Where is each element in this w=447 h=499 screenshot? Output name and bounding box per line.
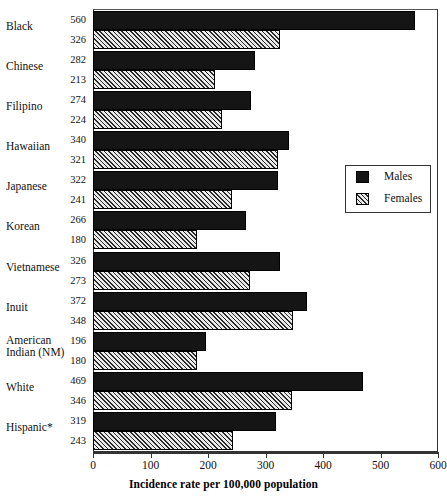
value-label-females: 243 (60, 435, 86, 446)
bar-males (93, 51, 255, 70)
value-label-females: 346 (60, 395, 86, 406)
bar-females (93, 150, 278, 169)
bar-males (93, 211, 246, 230)
bar-males (93, 292, 307, 311)
bar-females (93, 30, 280, 49)
value-label-females: 348 (60, 315, 86, 326)
x-axis-tick (208, 452, 209, 458)
bar-females (93, 230, 197, 249)
value-label-females: 321 (60, 154, 86, 165)
bar-males (93, 372, 363, 391)
bar-males (93, 412, 276, 431)
legend-swatch-females-icon (356, 193, 369, 205)
legend-item-females: Females (346, 188, 432, 212)
value-label-females: 213 (60, 74, 86, 85)
x-axis-tick (93, 452, 94, 458)
horizontal-bar-chart: BlackChineseFilipinoHawaiianJapaneseKore… (0, 0, 447, 499)
value-label-males: 340 (60, 134, 86, 145)
value-label-females: 273 (60, 275, 86, 286)
bar-females (93, 311, 293, 330)
x-axis-tick (266, 452, 267, 458)
bar-males (93, 131, 289, 150)
value-label-females: 224 (60, 114, 86, 125)
x-axis-tick-label: 100 (131, 459, 171, 471)
value-label-females: 180 (60, 355, 86, 366)
x-axis-title: Incidence rate per 100,000 population (0, 478, 447, 490)
x-axis-tick-label: 0 (73, 459, 113, 471)
bar-females (93, 70, 215, 89)
bar-males (93, 171, 278, 190)
x-axis-tick-label: 600 (418, 459, 447, 471)
value-label-males: 560 (60, 14, 86, 25)
x-axis-tick-label: 300 (246, 459, 286, 471)
value-label-females: 241 (60, 194, 86, 205)
value-label-females: 180 (60, 234, 86, 245)
value-label-males: 196 (60, 335, 86, 346)
bar-females (93, 110, 222, 129)
value-label-females: 326 (60, 34, 86, 45)
x-axis-tick (381, 452, 382, 458)
legend-swatch-males-icon (356, 171, 369, 183)
bar-females (93, 271, 250, 290)
bar-males (93, 91, 251, 110)
x-axis-tick (151, 452, 152, 458)
bar-females (93, 431, 233, 450)
legend-label-females: Females (384, 192, 422, 204)
value-label-males: 326 (60, 255, 86, 266)
x-axis-tick (438, 452, 439, 458)
x-axis-tick-label: 500 (361, 459, 401, 471)
bar-males (93, 332, 206, 351)
value-label-males: 469 (60, 375, 86, 386)
bar-females (93, 351, 197, 370)
bar-males (93, 252, 280, 271)
bar-females (93, 190, 232, 209)
value-label-males: 319 (60, 415, 86, 426)
bar-females (93, 391, 292, 410)
legend-item-males: Males (346, 166, 432, 190)
value-label-males: 282 (60, 54, 86, 65)
value-label-males: 322 (60, 174, 86, 185)
x-axis-tick-label: 200 (188, 459, 228, 471)
value-label-males: 266 (60, 214, 86, 225)
legend: Males Females (345, 165, 431, 213)
bar-males (93, 11, 415, 30)
value-label-males: 274 (60, 94, 86, 105)
legend-label-males: Males (384, 170, 412, 182)
x-axis-tick (323, 452, 324, 458)
x-axis-tick-label: 400 (303, 459, 343, 471)
value-label-males: 372 (60, 295, 86, 306)
